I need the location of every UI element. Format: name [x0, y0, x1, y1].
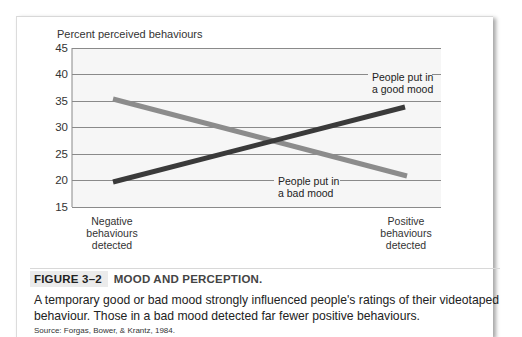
- figure-title: MOOD AND PERCEPTION.: [114, 273, 263, 285]
- svg-text:People put in: People put in: [278, 175, 339, 187]
- y-axis-title: Percent perceived behaviours: [57, 28, 203, 40]
- figure-number: FIGURE 3–2: [30, 271, 108, 287]
- figure-caption: FIGURE 3–2 MOOD AND PERCEPTION. A tempor…: [30, 268, 500, 335]
- x-label-negative: Negative behaviours detected: [86, 215, 137, 251]
- svg-text:a bad mood: a bad mood: [278, 187, 334, 199]
- svg-text:35: 35: [55, 95, 68, 107]
- svg-text:30: 30: [55, 121, 68, 133]
- svg-text:detected: detected: [386, 239, 426, 251]
- label-bad-mood: People put in a bad mood: [278, 175, 339, 199]
- svg-text:40: 40: [55, 68, 68, 80]
- svg-text:45: 45: [55, 42, 68, 54]
- label-good-mood: People put in a good mood: [372, 71, 433, 95]
- caption-header: FIGURE 3–2 MOOD AND PERCEPTION.: [30, 269, 500, 289]
- svg-text:detected: detected: [92, 239, 132, 251]
- svg-text:Positive: Positive: [388, 215, 425, 227]
- y-tick-labels: 45 40 35 30 25 20 15: [55, 42, 68, 213]
- svg-text:20: 20: [55, 174, 68, 186]
- x-label-positive: Positive behaviours detected: [380, 215, 431, 251]
- svg-text:15: 15: [55, 201, 68, 213]
- svg-text:25: 25: [55, 148, 68, 160]
- svg-text:a good mood: a good mood: [372, 83, 433, 95]
- svg-text:Negative: Negative: [91, 215, 133, 227]
- svg-text:People put in: People put in: [372, 71, 433, 83]
- caption-source: Source: Forgas, Bower, & Krantz, 1984.: [34, 326, 500, 335]
- svg-text:behaviours: behaviours: [86, 227, 137, 239]
- svg-text:behaviours: behaviours: [380, 227, 431, 239]
- caption-body: A temporary good or bad mood strongly in…: [34, 293, 500, 324]
- mood-chart: 45 40 35 30 25 20 15 Percent perceived b…: [0, 0, 522, 268]
